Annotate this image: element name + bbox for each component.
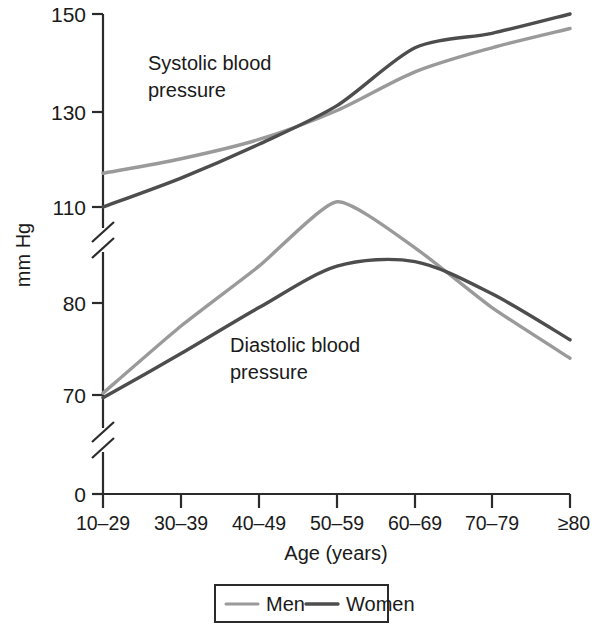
series-line-diastolic-women bbox=[103, 259, 570, 397]
annotation-systolic-line2: pressure bbox=[148, 79, 226, 101]
x-tick-label-0: 10–29 bbox=[76, 512, 130, 534]
annotation-diastolic-line2: pressure bbox=[230, 361, 308, 383]
legend-label-men: Men bbox=[266, 593, 305, 615]
legend: Men Women bbox=[215, 585, 415, 622]
y-axis-title: mm Hg bbox=[12, 223, 34, 287]
x-tick-label-6: ≥80 bbox=[558, 512, 591, 534]
annotation-diastolic-line1: Diastolic blood bbox=[230, 334, 360, 356]
x-tick-label-1: 30–39 bbox=[154, 512, 208, 534]
y-axis bbox=[92, 14, 114, 494]
y-tick-label-150: 150 bbox=[51, 3, 86, 26]
chart-figure: 150 130 110 80 70 0 mm Hg 10–29 30–39 40… bbox=[0, 0, 602, 637]
y-tick-label-110: 110 bbox=[53, 196, 86, 219]
x-axis bbox=[103, 494, 570, 508]
x-tick-label-5: 70–79 bbox=[465, 512, 519, 534]
legend-label-women: Women bbox=[346, 593, 415, 615]
y-tick-label-80: 80 bbox=[63, 292, 86, 315]
y-tick-label-70: 70 bbox=[63, 384, 86, 407]
x-tick-label-4: 60–69 bbox=[388, 512, 442, 534]
x-tick-label-2: 40–49 bbox=[232, 512, 286, 534]
x-tick-label-3: 50–59 bbox=[310, 512, 364, 534]
annotation-systolic-line1: Systolic blood bbox=[148, 52, 271, 74]
chart-svg: 150 130 110 80 70 0 mm Hg 10–29 30–39 40… bbox=[0, 0, 602, 637]
x-axis-title: Age (years) bbox=[284, 542, 387, 564]
y-tick-label-0: 0 bbox=[74, 483, 86, 506]
y-tick-label-130: 130 bbox=[51, 101, 86, 124]
